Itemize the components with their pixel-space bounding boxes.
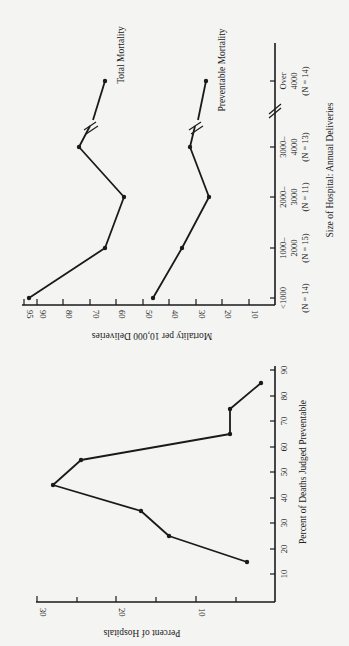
category-label: 3000 xyxy=(289,189,299,206)
category-n: (N = 14) xyxy=(300,66,310,96)
category-label: 4000 xyxy=(289,73,299,90)
category-n: (N = 14) xyxy=(300,283,310,313)
hospital-ticks xyxy=(37,596,236,602)
svg-text:50: 50 xyxy=(279,468,289,477)
figure: 95 90 80 70 60 50 40 30 20 10 Mortality … xyxy=(0,0,349,646)
tick-label: 30 xyxy=(197,310,207,319)
series-total-mortality xyxy=(27,79,126,300)
series-preventable-mortality xyxy=(151,79,211,300)
hospitals-axis-title: Percent of Hospitals xyxy=(103,628,180,638)
deaths-axis-title: Percent of Deaths Judged Preventable xyxy=(298,400,308,544)
mortality-axis-title: Mortality per 10,000 Deliveries xyxy=(92,331,213,341)
category-n: (N = 11) xyxy=(300,182,310,211)
tick-label: 10 xyxy=(250,310,260,319)
svg-text:40: 40 xyxy=(279,494,289,503)
size-tick-labels: <1000 (N = 14) 1000– 2000 (N = 15) 2000–… xyxy=(278,66,310,313)
tick-label: 60 xyxy=(117,310,127,319)
svg-text:10: 10 xyxy=(279,570,289,579)
svg-text:20: 20 xyxy=(279,545,289,554)
svg-text:70: 70 xyxy=(279,417,289,426)
tick-label: 20 xyxy=(117,608,127,617)
mortality-tick-labels: 95 90 80 70 60 50 40 30 20 10 xyxy=(25,310,260,319)
svg-text:60: 60 xyxy=(279,443,289,452)
category-label: 3000– xyxy=(278,136,288,158)
category-n: (N = 15) xyxy=(300,233,310,263)
series-percent-hospitals xyxy=(51,381,263,564)
tick-label: 10 xyxy=(197,608,207,617)
tick-label: 80 xyxy=(64,310,74,319)
series-label-preventable: Preventable Mortality xyxy=(217,28,227,111)
tick-label: 90 xyxy=(38,310,48,319)
category-label: 4000 xyxy=(289,139,299,156)
tick-label: 30 xyxy=(38,608,48,617)
tick-label: 70 xyxy=(91,310,101,319)
category-label: 2000– xyxy=(278,186,288,208)
mortality-chart: 95 90 80 70 60 50 40 30 20 10 Mortality … xyxy=(22,26,335,341)
svg-text:80: 80 xyxy=(279,392,289,401)
tick-label: 95 xyxy=(25,310,35,319)
preventable-distribution-chart: 30 20 10 Percent of Hospitals 10 20 30 4… xyxy=(36,366,308,638)
category-label: 2000 xyxy=(289,240,299,257)
series-label-total: Total Mortality xyxy=(116,26,126,84)
tick-label: 50 xyxy=(144,310,154,319)
category-label: 1000– xyxy=(278,237,288,259)
svg-text:30: 30 xyxy=(279,519,289,528)
category-label: Over xyxy=(278,72,288,89)
tick-label: 20 xyxy=(223,310,233,319)
size-axis-title: Size of Hospital: Annual Deliveries xyxy=(325,102,335,237)
category-label: <1000 xyxy=(278,287,288,309)
deaths-tick-labels: 10 20 30 40 50 60 70 80 90 xyxy=(279,366,289,579)
tick-label: 40 xyxy=(170,310,180,319)
mortality-ticks xyxy=(24,299,249,305)
svg-text:90: 90 xyxy=(279,366,289,375)
category-n: (N = 13) xyxy=(300,132,310,162)
